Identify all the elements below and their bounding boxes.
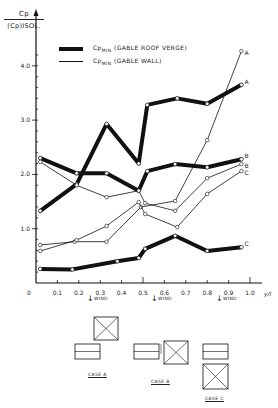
thin-line-swatch-icon	[59, 61, 83, 62]
y-axis-label-denominator: (Cp)ISOL.	[4, 19, 44, 30]
data-point-marker	[105, 195, 109, 199]
data-point-marker	[173, 209, 177, 213]
data-point-marker	[105, 240, 109, 244]
series-marker-label: A	[244, 49, 249, 56]
thick-line-swatch-icon	[59, 47, 83, 51]
x-tick-label: 0.5	[138, 289, 148, 296]
x-tick-label: 0.7	[181, 289, 191, 296]
data-point-marker	[137, 200, 141, 204]
wind-indicator-case-a: ↓WIND	[87, 295, 108, 303]
data-point-marker	[145, 169, 149, 173]
x-tick-label: 0.2	[74, 289, 84, 296]
legend-item-roof-verge: CpMIN (GABLE ROOF VERGE)	[59, 42, 187, 55]
x-tick-label: 0.4	[117, 289, 127, 296]
case-a-label: CASE A	[88, 372, 107, 377]
data-point-marker	[205, 138, 209, 142]
legend-label-sub: MIN	[102, 48, 112, 53]
data-point-marker	[240, 157, 244, 161]
data-point-marker	[38, 156, 42, 160]
legend-label-main: Cp	[93, 57, 102, 64]
legend-label-rest: (GABLE ROOF VERGE)	[112, 44, 188, 51]
legend-label-rest: (GABLE WALL)	[112, 57, 162, 64]
x-tick-label: 0.1	[53, 289, 63, 296]
legend: CpMIN (GABLE ROOF VERGE) CpMIN (GABLE WA…	[59, 42, 187, 68]
data-point-marker	[205, 166, 209, 170]
data-point-marker	[205, 102, 209, 106]
data-point-marker	[143, 247, 147, 251]
data-point-marker	[105, 224, 109, 228]
data-point-marker	[38, 160, 42, 164]
x-tick-label: 0	[27, 289, 31, 296]
case-b-label: CASE B	[151, 379, 170, 384]
series-marker-label: B	[244, 152, 248, 159]
series-marker-label: A	[244, 78, 249, 85]
y-tick-label: 4.0	[20, 62, 30, 69]
down-arrow-icon: ↓	[216, 295, 223, 303]
y-axis-label-numerator: Cp	[4, 10, 44, 19]
data-point-marker	[175, 225, 179, 229]
data-point-marker	[75, 238, 79, 242]
down-arrow-icon: ↓	[87, 295, 94, 303]
data-point-marker	[75, 172, 79, 176]
wind-indicator-case-c: ↓WIND	[216, 295, 237, 303]
data-point-marker	[105, 122, 109, 126]
x-tick-label: 1.0	[245, 289, 255, 296]
data-point-marker	[240, 83, 244, 87]
data-point-marker	[240, 162, 244, 166]
data-point-marker	[143, 201, 147, 205]
data-point-marker	[173, 162, 177, 166]
data-point-marker	[175, 97, 179, 101]
data-point-marker	[240, 245, 244, 249]
data-point-marker	[145, 103, 149, 107]
data-point-marker	[75, 183, 79, 187]
data-point-marker	[205, 192, 209, 196]
data-point-marker	[205, 176, 209, 180]
series-marker-label: C	[244, 169, 248, 176]
data-point-marker	[137, 256, 141, 260]
y-tick-label: 1.0	[20, 225, 30, 232]
data-point-marker	[38, 267, 42, 271]
data-point-marker	[173, 199, 177, 203]
data-point-marker	[137, 189, 141, 193]
x-axis-label: y/l	[263, 290, 272, 298]
data-point-marker	[143, 212, 147, 216]
data-point-marker	[137, 162, 141, 166]
wind-indicator-case-b: ↓WIND	[151, 295, 172, 303]
series-marker-label: B	[244, 162, 248, 169]
data-point-marker	[38, 249, 42, 253]
data-point-marker	[173, 234, 177, 238]
y-axis-label: Cp (Cp)ISOL.	[4, 10, 44, 30]
data-point-marker	[105, 172, 109, 176]
x-tick-label: 0.8	[202, 289, 212, 296]
legend-label-sub: MIN	[102, 61, 112, 66]
legend-item-gable-wall: CpMIN (GABLE WALL)	[59, 55, 187, 68]
data-point-marker	[38, 209, 42, 213]
series-line	[40, 85, 241, 211]
data-point-marker	[71, 268, 75, 272]
data-point-marker	[116, 259, 120, 263]
chart-series: ABCABC	[38, 49, 249, 271]
legend-label-main: Cp	[93, 44, 102, 51]
data-point-marker	[240, 49, 244, 53]
down-arrow-icon: ↓	[151, 295, 158, 303]
data-point-marker	[240, 169, 244, 173]
y-tick-label: 3.0	[20, 116, 30, 123]
data-point-marker	[38, 243, 42, 247]
series-marker-label: C	[244, 240, 248, 247]
series-line	[40, 158, 241, 191]
y-tick-label: 2.0	[20, 170, 30, 177]
series-line	[40, 236, 241, 270]
data-point-marker	[205, 249, 209, 253]
case-c-label: CASE C	[205, 396, 224, 401]
